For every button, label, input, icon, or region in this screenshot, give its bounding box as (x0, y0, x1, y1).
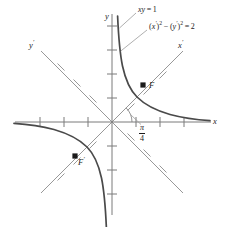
angle-denominator: 4 (139, 135, 145, 144)
focus-label-F-prime: F′ (78, 158, 85, 167)
equation-rotated-rhs: 2 (191, 22, 195, 31)
equation-xy-relation: = (147, 5, 152, 14)
focus-point-F (140, 82, 145, 87)
equation-rotated-prime2: ′ (176, 19, 177, 26)
equation-rotated-exp1: 2 (159, 20, 162, 26)
hyperbola-branch-upper-right (118, 16, 210, 121)
leader-line-rotated (121, 30, 147, 51)
focus-label-F-prime-mark: ′ (83, 155, 84, 162)
conic-rotation-figure: y x y′ x′ xy = 1 (x′)2 − (y′)2 = 2 F F′ … (0, 0, 230, 227)
equation-rotated-label: (x′)2 − (y′)2 = 2 (149, 23, 195, 31)
equation-rotated-prime1: ′ (155, 19, 156, 26)
equation-rotated-operator: − (164, 22, 169, 31)
x-axis-label: x (213, 117, 217, 126)
graph-canvas (0, 0, 230, 227)
equation-rotated-relation: = (185, 22, 190, 31)
equation-xy-rhs: 1 (153, 5, 157, 14)
y-axis-label: y (105, 12, 109, 21)
focus-label-F: F (149, 81, 154, 90)
equation-xy-var2: y (142, 5, 146, 14)
y-prime-axis-label: y′ (29, 41, 34, 50)
y-prime-axis-label-prime: ′ (33, 38, 34, 45)
focus-point-F-prime (72, 153, 77, 158)
y-axis (107, 14, 117, 215)
x-axis (15, 117, 211, 127)
equation-rotated-exp2: 2 (180, 20, 183, 26)
angle-label-pi-over-4: π 4 (139, 124, 145, 143)
angle-numerator: π (139, 124, 145, 133)
leader-line-xy (120, 13, 137, 28)
hyperbola-branch-lower-left (14, 123, 106, 227)
equation-xy-label: xy = 1 (138, 6, 157, 14)
x-prime-axis-label-prime: ′ (182, 38, 183, 45)
x-prime-axis-label: x′ (178, 41, 183, 50)
